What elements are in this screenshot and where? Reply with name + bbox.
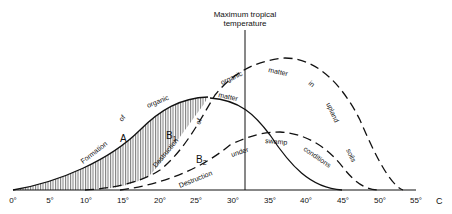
title-line-2: temperature: [223, 19, 267, 28]
curve-label-a: A: [120, 133, 127, 144]
word-matter-b1: matter: [268, 66, 290, 77]
tick-40: 40°: [300, 196, 312, 205]
tick-25: 25°: [190, 196, 202, 205]
tick-0: 0°: [9, 196, 17, 205]
temperature-organic-matter-diagram: Maximum tropical temperature A B1 B2 For…: [0, 0, 452, 214]
word-of-a: of: [117, 114, 126, 123]
word-organic-a: organic: [146, 94, 171, 110]
title-line-1: Maximum tropical: [214, 10, 277, 19]
curve-label-b2: B2: [196, 154, 207, 166]
tick-55: 55°: [410, 196, 422, 205]
tick-5: 5°: [46, 196, 54, 205]
tick-10: 10°: [80, 196, 92, 205]
tick-30: 30°: [227, 196, 239, 205]
word-destruction-b2: Destruction: [178, 169, 214, 189]
tick-15: 15°: [117, 196, 129, 205]
word-in-b1: in: [307, 79, 316, 88]
hatched-net-accumulation-area: [13, 97, 208, 190]
word-conditions: conditions: [302, 145, 332, 169]
tick-20: 20°: [154, 196, 166, 205]
word-soils: soils: [345, 147, 357, 163]
tick-45: 45°: [337, 196, 349, 205]
tick-35: 35°: [264, 196, 276, 205]
word-under: under: [230, 146, 250, 158]
axis-unit-label: C: [436, 196, 443, 206]
word-matter-a: matter: [218, 91, 240, 102]
tick-50: 50°: [374, 196, 386, 205]
word-upland: upland: [324, 101, 340, 124]
word-swamp: swamp: [265, 137, 288, 147]
word-organic-b1: organic: [219, 70, 244, 87]
x-axis-tick-labels: 0° 5° 10° 15° 20° 25° 30° 35° 40° 45° 50…: [9, 196, 422, 205]
